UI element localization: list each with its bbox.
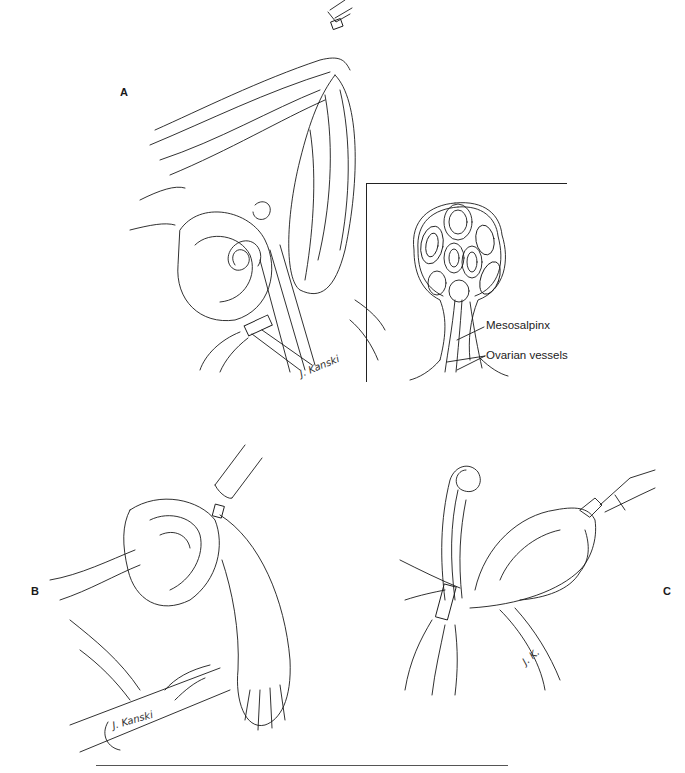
callout-mesosalpinx: Mesosalpinx xyxy=(486,319,550,331)
bottom-divider xyxy=(96,765,508,766)
panel-label-c: C xyxy=(663,585,671,597)
panel-label-b: B xyxy=(31,585,39,597)
callout-ovarian-vessels: Ovarian vessels xyxy=(486,349,568,361)
panel-label-a: A xyxy=(120,86,128,98)
panel-a-illustration xyxy=(0,0,685,773)
